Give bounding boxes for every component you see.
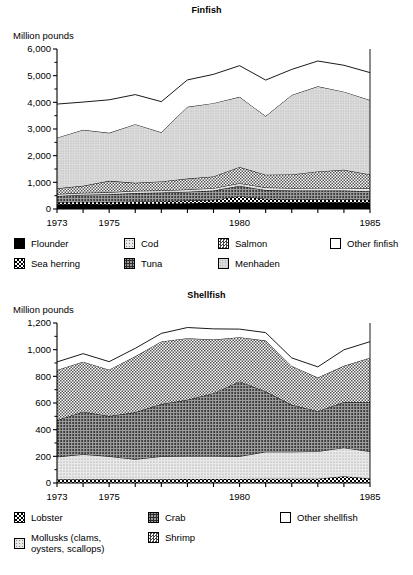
legend-label: Other shellfish [297,512,358,523]
shellfish-plot-area: 02004006008001,0001,2001973197519801985 [0,314,413,513]
legend-label: Lobster [31,512,63,523]
svg-text:1,000: 1,000 [27,344,51,355]
svg-text:1985: 1985 [359,491,380,502]
legend-swatch-icon [14,258,25,269]
svg-text:1980: 1980 [229,217,250,228]
legend-item[interactable]: Salmon [218,238,267,249]
legend-row: Flounder Cod Salmon Other finfish [0,238,413,258]
legend-label: Other finfish [347,238,398,249]
legend-label: Shrimp [165,532,195,543]
svg-text:400: 400 [35,424,51,435]
finfish-chart-block: Finfish Million pounds [0,0,413,288]
legend-row: Lobster Crab Other shellfish [0,512,413,532]
legend-label: Salmon [235,238,267,249]
svg-text:1980: 1980 [229,491,250,502]
finfish-chart-title: Finfish [0,5,413,15]
legend-label: Tuna [141,258,162,269]
svg-text:2,000: 2,000 [27,150,51,161]
svg-text:6,000: 6,000 [27,43,51,54]
svg-text:1975: 1975 [99,217,120,228]
svg-text:3,000: 3,000 [27,123,51,134]
legend-item[interactable]: Other finfish [330,238,398,249]
legend-item[interactable]: Menhaden [218,258,280,269]
legend-swatch-icon [218,238,229,249]
shellfish-chart-title: Shellfish [0,290,413,300]
svg-text:1,000: 1,000 [27,177,51,188]
legend-item[interactable]: Tuna [124,258,162,269]
legend-label: Flounder [31,238,69,249]
svg-text:1973: 1973 [46,491,67,502]
svg-text:4,000: 4,000 [27,97,51,108]
svg-text:1975: 1975 [99,491,120,502]
shellfish-legend: Lobster Crab Other shellfish Mollusks (c… [0,512,413,552]
legend-swatch-icon [148,532,159,543]
legend-swatch-icon [218,258,229,269]
legend-swatch-icon [124,238,135,249]
legend-label: Mollusks (clams,oysters, scallops) [31,532,151,554]
legend-item[interactable]: Shrimp [148,532,195,543]
legend-row: Sea herring Tuna Menhaden [0,258,413,278]
svg-text:0: 0 [46,203,51,214]
legend-label: Sea herring [31,258,80,269]
legend-label: Crab [165,512,186,523]
legend-row: Mollusks (clams,oysters, scallops) Shrim… [0,532,413,552]
legend-item[interactable]: Mollusks (clams,oysters, scallops) [14,532,151,554]
legend-swatch-icon [124,258,135,269]
legend-swatch-icon [14,512,25,523]
svg-text:1973: 1973 [46,217,67,228]
svg-text:600: 600 [35,397,51,408]
legend-label: Cod [141,238,158,249]
legend-item[interactable]: Sea herring [14,258,80,269]
legend-swatch-icon [330,238,341,249]
legend-item[interactable]: Other shellfish [280,512,358,523]
legend-item[interactable]: Lobster [14,512,63,523]
svg-text:5,000: 5,000 [27,70,51,81]
svg-text:1985: 1985 [359,217,380,228]
legend-label: Menhaden [235,258,280,269]
svg-text:800: 800 [35,371,51,382]
finfish-plot-area: 01,0002,0003,0004,0005,0006,000197319751… [0,40,413,239]
svg-text:1,200: 1,200 [27,317,51,328]
legend-item[interactable]: Crab [148,512,186,523]
shellfish-chart-block: Shellfish Million pounds [0,288,413,575]
legend-swatch-icon [14,238,25,249]
legend-swatch-icon [148,512,159,523]
svg-text:200: 200 [35,451,51,462]
legend-swatch-icon [14,538,25,549]
svg-text:0: 0 [46,477,51,488]
legend-item[interactable]: Flounder [14,238,69,249]
legend-item[interactable]: Cod [124,238,158,249]
legend-swatch-icon [280,512,291,523]
finfish-legend: Flounder Cod Salmon Other finfish [0,238,413,278]
